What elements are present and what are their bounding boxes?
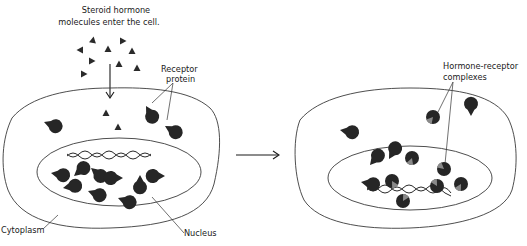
cytoplasm-molecules <box>42 103 186 142</box>
extracellular-hormones <box>77 36 141 78</box>
receptor-label-line2: protein <box>166 74 195 84</box>
transition-arrow <box>236 151 279 159</box>
complex-label-line2: complexes <box>443 72 487 82</box>
nucleus-complex <box>430 178 444 193</box>
left-cell: Steroid hormone molecules enter the cell… <box>1 5 220 238</box>
right-cytoplasm-molecules <box>339 97 478 141</box>
entry-arrow <box>106 64 114 98</box>
cytoplasm-complex <box>426 110 440 125</box>
nucleus-leader <box>152 197 184 233</box>
nucleus-receptors <box>50 158 165 211</box>
cytoplasm-leader <box>43 215 58 229</box>
nucleus-label: Nucleus <box>184 228 217 238</box>
nucleus-complex <box>396 193 410 208</box>
right-cell: Hormone-receptor complexes <box>295 61 519 228</box>
entry-label-line2: molecules enter the cell. <box>58 17 159 27</box>
complex-label-line1: Hormone-receptor <box>443 61 519 71</box>
steroid-hormone-diagram: Steroid hormone molecules enter the cell… <box>0 0 527 246</box>
nucleus-complex <box>454 177 468 192</box>
receptor-leader-1 <box>152 83 173 103</box>
receptor-leader-2 <box>167 83 173 120</box>
nucleus-complex <box>405 151 419 166</box>
left-dna <box>67 151 151 159</box>
nucleus-complex <box>436 162 451 176</box>
right-nucleus-molecules <box>360 139 468 208</box>
complex-leader-2 <box>445 82 453 164</box>
entry-label-line1: Steroid hormone <box>82 5 150 15</box>
cytoplasm-label: Cytoplasm <box>1 225 45 235</box>
receptor-label-line1: Receptor <box>161 64 198 74</box>
